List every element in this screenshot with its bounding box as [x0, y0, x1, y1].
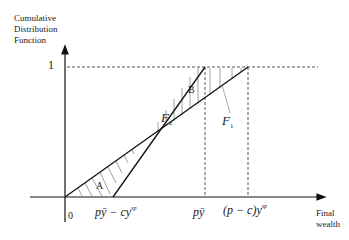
y-tick-1: 1	[48, 60, 54, 71]
x-tick-high-text: (p − c)y	[223, 203, 262, 217]
x-axis-label: Final wealth	[316, 208, 340, 230]
f1-leader	[222, 85, 230, 113]
x-tick-py: pȳ	[193, 205, 204, 220]
y-label-line-2: Distribution	[14, 24, 58, 35]
region-b-label: B	[188, 84, 195, 95]
label-f1: F1	[222, 113, 233, 130]
x-tick-high-sup: sp	[262, 203, 267, 209]
y-axis-label: Cumulative Distribution Function	[14, 13, 58, 46]
label-f2: F2	[161, 110, 172, 127]
curve-f1	[65, 67, 248, 197]
region-a-label: A	[96, 180, 103, 191]
x-tick-origin: 0	[68, 210, 73, 221]
f1-letter: F	[222, 113, 230, 128]
f2-letter: F	[161, 110, 169, 125]
f2-subscript: 2	[169, 119, 173, 127]
region-a-hatch	[78, 150, 134, 196]
x-tick-high-wealth: (p − c)ysp	[223, 203, 267, 218]
x-tick-low-text: pȳ − cy	[95, 205, 131, 219]
x-tick-low-sup: sp	[131, 205, 136, 211]
f1-subscript: 1	[230, 122, 234, 130]
axes	[30, 46, 325, 222]
cdf-curves	[65, 67, 248, 197]
y-label-line-3: Function	[14, 35, 58, 46]
x-label-line-1: Final	[316, 208, 340, 219]
x-tick-low-wealth: pȳ − cysp	[95, 205, 136, 220]
y-label-line-1: Cumulative	[14, 13, 58, 24]
x-label-line-2: wealth	[316, 219, 340, 230]
